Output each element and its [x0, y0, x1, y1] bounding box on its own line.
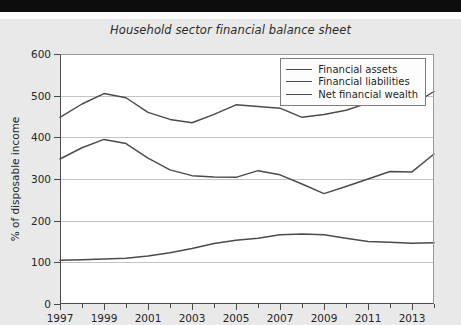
x-axis-tick-label: 2011	[355, 312, 382, 324]
y-axis-label-text: % of disposable income	[9, 117, 21, 242]
x-axis-tick-label: 1999	[91, 312, 118, 324]
series-line	[60, 139, 434, 193]
x-axis-tick	[302, 304, 303, 308]
y-axis-tick-label: 500	[31, 90, 51, 102]
y-axis-tick-label: 0	[44, 298, 51, 310]
x-axis-tick	[390, 304, 391, 308]
x-axis-tick-label: 2001	[135, 312, 162, 324]
x-axis-tick	[104, 304, 105, 310]
legend-swatch-line-icon	[286, 81, 312, 82]
x-axis-tick-label: 2007	[267, 312, 294, 324]
x-axis-tick	[126, 304, 127, 308]
x-axis-tick	[60, 304, 61, 310]
legend-swatch-line-icon	[286, 94, 312, 95]
y-axis-tick-label: 400	[31, 131, 51, 143]
top-black-bar	[0, 0, 461, 12]
x-axis-tick	[258, 304, 259, 308]
y-axis-tick-label: 200	[31, 215, 51, 227]
x-axis-tick-label: 2005	[223, 312, 250, 324]
x-axis-tick	[236, 304, 237, 310]
plot-area: 0100200300400500600 19971999200120032005…	[60, 54, 434, 304]
chart-legend: Financial assetsFinancial liabilitiesNet…	[280, 58, 426, 106]
series-line	[60, 234, 434, 260]
y-axis-tick-label: 100	[31, 256, 51, 268]
x-axis-tick-label: 2013	[399, 312, 426, 324]
y-axis-label: % of disposable income	[8, 54, 22, 304]
chart-title: Household sector financial balance sheet	[0, 23, 461, 37]
y-axis-tick-label: 600	[31, 48, 51, 60]
x-axis-tick	[148, 304, 149, 310]
legend-item-label: Net financial wealth	[318, 89, 418, 100]
x-axis-tick	[280, 304, 281, 310]
legend-item-label: Financial liabilities	[318, 76, 409, 87]
x-axis-tick	[412, 304, 413, 310]
page-top-band	[0, 12, 461, 19]
x-axis-tick	[170, 304, 171, 308]
x-axis-tick	[82, 304, 83, 308]
legend-swatch-line-icon	[286, 69, 312, 70]
legend-item-label: Financial assets	[318, 64, 397, 75]
x-axis-tick	[346, 304, 347, 308]
x-axis-tick	[368, 304, 369, 310]
y-axis-tick-label: 300	[31, 173, 51, 185]
legend-item: Financial liabilities	[286, 76, 418, 89]
x-axis-tick	[434, 304, 435, 308]
x-axis-tick-label: 2003	[179, 312, 206, 324]
x-axis-tick-label: 1997	[47, 312, 74, 324]
x-axis-tick	[192, 304, 193, 310]
x-axis-tick	[214, 304, 215, 308]
x-axis-tick-label: 2009	[311, 312, 338, 324]
legend-item: Financial assets	[286, 63, 418, 76]
legend-item: Net financial wealth	[286, 88, 418, 101]
x-axis-tick	[324, 304, 325, 310]
